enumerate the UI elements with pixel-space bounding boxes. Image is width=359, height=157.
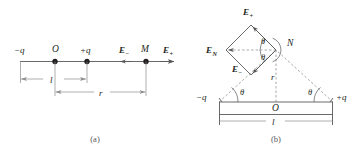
panel-a-point-m-label: M — [140, 44, 150, 54]
panel-a-field-minus-label: E − — [118, 45, 130, 57]
panel-b-field-plus-label: E + — [242, 7, 254, 19]
panel-a-dimension-r: r — [56, 88, 146, 98]
panel-b-field-minus-subscript: − — [239, 69, 243, 76]
panel-b-negative-charge-label: −q — [196, 92, 207, 102]
panel-b-caption: (b) — [271, 134, 281, 144]
panel-a-caption: (a) — [90, 134, 100, 144]
panel-a-positive-charge-label: +q — [80, 45, 91, 55]
panel-a-field-plus-subscript: + — [170, 50, 174, 57]
panel-b: l E + E N E − N θ θ θ θ −q +q O r (b) — [196, 7, 347, 144]
panel-b-angle-right-label: θ — [308, 87, 312, 97]
panel-b-field-n-subscript: N — [212, 50, 218, 57]
panel-b-angle-lower-label: θ — [261, 52, 265, 62]
svg-text:E: E — [162, 45, 169, 55]
panel-b-dimension-l-label: l — [272, 117, 275, 127]
panel-b-right-side — [276, 50, 333, 102]
panel-b-point-n-label: N — [286, 38, 294, 48]
panel-a-dimension-r-label: r — [99, 88, 103, 98]
svg-text:E: E — [242, 7, 249, 17]
panel-b-positive-charge-label: +q — [336, 92, 347, 102]
panel-b-dimension-l: l — [220, 117, 332, 127]
panel-b-field-plus-subscript: + — [250, 12, 254, 19]
panel-b-field-n-label: E N — [205, 45, 218, 57]
svg-text:E: E — [231, 64, 238, 74]
panel-a-dimension-l-label: l — [50, 75, 53, 85]
panel-a-field-minus-subscript: − — [126, 50, 130, 57]
panel-b-field-minus-label: E − — [231, 64, 243, 76]
panel-a-origin-label: O — [52, 44, 59, 54]
panel-b-dimension-r-label: r — [271, 72, 275, 82]
panel-b-angle-left-label: θ — [240, 87, 244, 97]
panel-b-origin-label: O — [272, 103, 279, 113]
svg-text:E: E — [205, 45, 212, 55]
svg-text:E: E — [118, 45, 125, 55]
panel-a: −q O +q E − M E + l r (a) — [14, 44, 174, 145]
panel-b-rhombus-side-top-left — [226, 25, 251, 50]
panel-a-dimension-l: l — [21, 75, 86, 85]
panel-a-field-plus-label: E + — [162, 45, 174, 57]
panel-b-angle-upper-label: θ — [261, 36, 265, 46]
panel-a-negative-charge-label: −q — [14, 45, 25, 55]
physics-figure: −q O +q E − M E + l r (a) — [0, 0, 359, 157]
panel-b-left-side — [219, 50, 276, 102]
